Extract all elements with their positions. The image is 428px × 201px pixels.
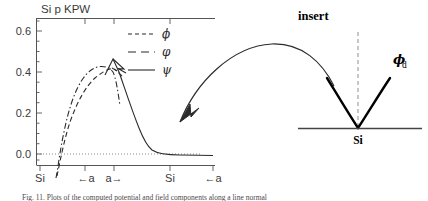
annotation-curved-arrow bbox=[180, 44, 334, 122]
curve-phi bbox=[56, 66, 120, 178]
curve-psi bbox=[105, 59, 213, 156]
insert-phi-d-subscript: d bbox=[402, 60, 407, 70]
figure-container: 0.6 0.4 0.2 0.0 Si p KPW Si ←a a→ Si ←a … bbox=[0, 0, 428, 201]
figure-svg: 0.6 0.4 0.2 0.0 Si p KPW Si ←a a→ Si ←a … bbox=[0, 0, 428, 201]
curve-varphi bbox=[57, 69, 117, 176]
curved-arrow-head bbox=[180, 104, 199, 122]
curved-arrow-path bbox=[180, 44, 334, 122]
y-tick-label-0: 0.6 bbox=[16, 25, 31, 37]
y-tick-label-2: 0.2 bbox=[16, 107, 31, 119]
insert-wedge-left-arm bbox=[327, 78, 358, 128]
curve-peak-notch bbox=[113, 59, 126, 73]
x-axis-label-0: Si bbox=[35, 172, 45, 184]
insert-wedge-right-arm bbox=[358, 78, 390, 128]
legend-label-phi: ϕ bbox=[162, 27, 170, 41]
legend-label-varphi: φ bbox=[162, 45, 171, 59]
legend-label-psi: ψ bbox=[162, 63, 172, 77]
x-axis-label-4: ←a bbox=[204, 172, 222, 184]
x-axis-label-1: ←a bbox=[77, 172, 95, 184]
insert-diagram: insert Si ϕ d bbox=[298, 9, 422, 146]
insert-substrate-label: Si bbox=[353, 134, 363, 146]
figure-caption: Fig. 11. Plots of the computed potential… bbox=[22, 193, 267, 201]
legend: ϕ φ ψ bbox=[128, 27, 172, 77]
x-axis-label-3: Si bbox=[165, 172, 175, 184]
x-axis-label-2: a→ bbox=[105, 172, 122, 184]
y-tick-label-1: 0.4 bbox=[16, 66, 31, 78]
y-tick-label-3: 0.0 bbox=[16, 148, 31, 160]
plot-title: Si p KPW bbox=[41, 3, 90, 15]
insert-title: insert bbox=[298, 9, 329, 23]
